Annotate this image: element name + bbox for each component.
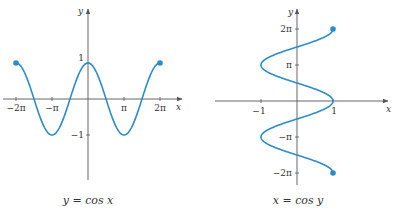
caption-right: x = cos y <box>273 194 324 207</box>
x-tick-label: −2π <box>6 103 25 113</box>
caption-left: y = cos x <box>62 194 114 207</box>
endpoint-dot <box>330 170 336 176</box>
y-tick-label: −1 <box>71 130 84 140</box>
y-tick-label: π <box>286 60 292 70</box>
x-tick-label: −1 <box>252 106 265 116</box>
x-axis-label: x <box>386 104 391 114</box>
x-axis-label: x <box>176 102 181 112</box>
y-tick-label: −π <box>279 132 293 142</box>
y-tick-label: 1 <box>78 53 84 63</box>
figure: −2π−ππ2π1−1 x y y = cos x −112ππ−π−2π x … <box>0 0 396 219</box>
chart-cos-y: −112ππ−π−2π x y x = cos y <box>215 7 391 207</box>
x-tick-label: π <box>121 103 127 113</box>
endpoint-dot <box>330 26 336 32</box>
y-axis-label: y <box>77 6 84 16</box>
x-tick-label: 1 <box>331 106 337 116</box>
chart-cos-x: −2π−ππ2π1−1 x y y = cos x <box>3 6 182 207</box>
endpoint-dot <box>13 60 19 66</box>
y-axis-label: y <box>287 7 294 17</box>
endpoint-dot <box>157 60 163 66</box>
y-tick-label: −2π <box>273 168 292 178</box>
x-tick-label: 2π <box>154 103 166 113</box>
x-tick-label: −π <box>45 103 59 113</box>
y-tick-label: 2π <box>280 24 292 34</box>
